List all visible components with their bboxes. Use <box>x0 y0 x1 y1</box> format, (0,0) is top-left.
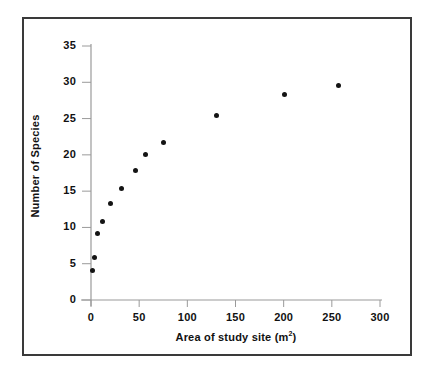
data-point <box>214 113 219 118</box>
data-point <box>161 140 166 145</box>
y-tick-label-0: 0 <box>36 293 76 305</box>
data-point <box>133 168 138 173</box>
y-tick-label-20: 20 <box>36 148 76 160</box>
x-tick-label-100: 100 <box>167 311 207 323</box>
y-tick-label-30: 30 <box>36 75 76 87</box>
figure: 05101520253035 050100150200250300 Number… <box>0 0 432 378</box>
data-point <box>95 231 100 236</box>
y-axis-title: Number of Species <box>29 91 41 241</box>
x-tick-label-50: 50 <box>119 311 159 323</box>
y-tick-label-15: 15 <box>36 184 76 196</box>
x-axis-title-text: Area of study site (m <box>176 331 289 343</box>
x-tick-label-200: 200 <box>264 311 304 323</box>
x-tick-label-300: 300 <box>360 311 400 323</box>
x-axis-title: Area of study site (m2) <box>91 330 381 343</box>
data-point <box>336 83 341 88</box>
x-tick-label-0: 0 <box>71 311 111 323</box>
y-tick-label-35: 35 <box>36 39 76 51</box>
x-tick-label-150: 150 <box>216 311 256 323</box>
y-tick-label-25: 25 <box>36 112 76 124</box>
y-tick-label-10: 10 <box>36 220 76 232</box>
x-axis-title-tail: ) <box>293 331 297 343</box>
y-tick-label-5: 5 <box>36 257 76 269</box>
x-tick-label-250: 250 <box>312 311 352 323</box>
data-point <box>108 201 113 206</box>
